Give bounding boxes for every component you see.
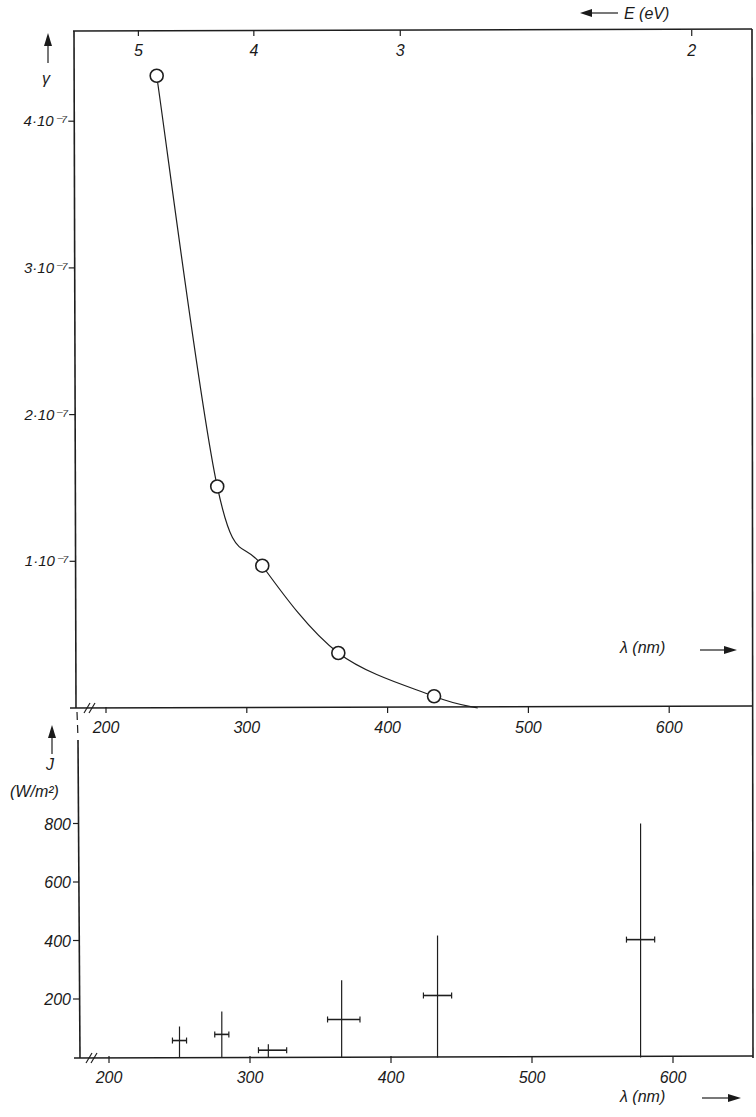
energy-tick-label: 5	[134, 42, 143, 59]
top-x-tick-label: 500	[515, 719, 542, 736]
gamma-data-point	[256, 559, 269, 572]
bottom-x-tick-label: 500	[519, 1069, 546, 1086]
top-panel-x-axis	[70, 706, 752, 708]
j-error-bar	[626, 824, 654, 1058]
top-x-tick-label: 300	[233, 719, 260, 736]
top-panel-top-border	[73, 29, 752, 31]
bottom-y-tick-label: 400	[44, 933, 71, 950]
top-panel-marks: 2003004005006001·10⁻⁷2·10⁻⁷3·10⁻⁷4·10⁻⁷5…	[23, 30, 696, 736]
j-error-bar	[258, 1044, 286, 1057]
figure: E (eV) γ λ (nm) J (W/m²) λ (nm) 20030040…	[0, 0, 756, 1117]
bottom-x-tick-label: 600	[660, 1069, 687, 1086]
gamma-data-point	[428, 690, 441, 703]
top-x-tick-label: 600	[656, 719, 683, 736]
bottom-x-tick-label: 400	[378, 1069, 405, 1086]
left-axis-dashed-link	[77, 712, 78, 738]
top-panel-left-axis	[74, 31, 76, 708]
j-error-bar	[172, 1026, 186, 1057]
j-error-bar	[423, 936, 451, 1058]
gamma-data-point	[332, 646, 345, 659]
bottom-y-tick-label: 800	[44, 816, 71, 833]
bottom-y-tick-label: 200	[43, 991, 71, 1008]
bottom-x-tick-label: 300	[237, 1069, 264, 1086]
top-x-tick-label: 200	[92, 719, 120, 736]
bottom-panel-marks: 200300400500600200400600800	[43, 816, 686, 1087]
top-y-tick-label: 1·10⁻⁷	[25, 552, 69, 569]
j-axis-arrow-icon	[48, 725, 56, 754]
gamma-data-point	[150, 69, 163, 82]
top-y-tick-label: 4·10⁻⁷	[24, 112, 68, 129]
right-border	[752, 29, 753, 1058]
top-xaxis-title: E (eV)	[624, 5, 669, 22]
top-x-tick-label: 400	[374, 719, 401, 736]
j-error-bar	[215, 1012, 229, 1058]
bottom-panel-x-axis	[74, 1056, 753, 1058]
top-yaxis-title: γ	[42, 70, 51, 87]
j-error-bar	[328, 980, 360, 1057]
bottom-yaxis-unit: (W/m²)	[10, 783, 59, 800]
bottom-y-tick-label: 600	[44, 874, 71, 891]
gamma-data-point	[211, 480, 224, 493]
gamma-fit-curve	[157, 76, 478, 708]
bottom-yaxis-title: J	[45, 756, 55, 773]
top-xaxis-title-lambda: λ (nm)	[619, 639, 665, 656]
bottom-xaxis-title: λ (nm)	[619, 1088, 665, 1105]
bottom-x-tick-label: 200	[95, 1069, 123, 1086]
energy-axis-arrow-icon	[580, 9, 618, 17]
top-y-tick-label: 3·10⁻⁷	[24, 259, 68, 276]
gamma-axis-arrow-icon	[44, 33, 52, 63]
energy-tick-label: 2	[686, 42, 696, 59]
bottom-lambda-arrow-icon	[702, 1094, 741, 1102]
bottom-panel-left-axis	[78, 740, 80, 1058]
top-lambda-arrow-icon	[700, 646, 737, 654]
energy-tick-label: 3	[396, 42, 405, 59]
top-y-tick-label: 2·10⁻⁷	[23, 406, 68, 423]
energy-tick-label: 4	[249, 42, 258, 59]
